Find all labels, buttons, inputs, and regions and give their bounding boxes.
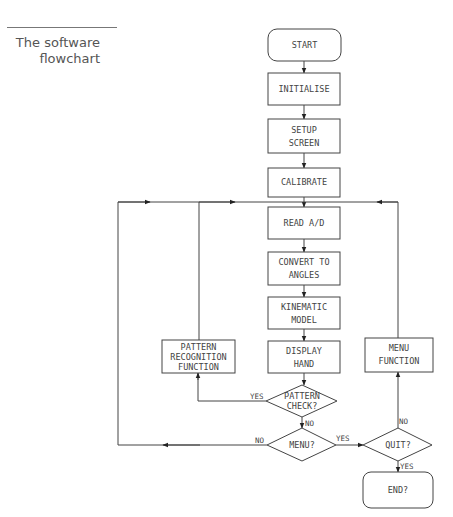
node-start-label: START (292, 40, 318, 50)
node-kinematic-model: KINEMATIC MODEL (268, 297, 340, 329)
node-read-ad-label: READ A/D (284, 218, 325, 228)
edge-label-pattern-no: NO (305, 419, 315, 428)
node-convert-label-1: CONVERT TO (278, 257, 329, 267)
node-display-hand: DISPLAY HAND (268, 341, 340, 373)
node-quit: QUIT? (363, 428, 432, 461)
node-menu-decision: MENU? (267, 428, 336, 461)
node-setup-label-2: SCREEN (289, 138, 320, 148)
node-menu-function: MENU FUNCTION (365, 338, 433, 372)
node-kinematic-label-1: KINEMATIC (281, 302, 327, 312)
node-convert-label-2: ANGLES (289, 270, 320, 280)
node-pattern-check-label-1: PATTERN (284, 391, 320, 401)
edge-label-menu-yes: YES (336, 434, 350, 443)
node-initialise-label: INITIALISE (278, 84, 329, 94)
node-initialise: INITIALISE (268, 73, 340, 105)
node-pattern-recognition: PATTERN RECOGNITION FUNCTION (162, 340, 235, 373)
edges (118, 61, 398, 472)
node-quit-label: QUIT? (385, 440, 411, 450)
node-setup-screen: SETUP SCREEN (268, 119, 340, 153)
node-end: END? (363, 472, 433, 508)
node-menu-function-label-2: FUNCTION (379, 356, 420, 366)
node-pattern-check-label-2: CHECK? (287, 401, 318, 411)
node-start: START (268, 29, 341, 61)
edge-label-menu-no: NO (255, 436, 265, 445)
node-calibrate: CALIBRATE (268, 168, 340, 197)
node-pattern-check: PATTERN CHECK? (266, 385, 337, 417)
node-pattern-rec-label-3: FUNCTION (178, 362, 219, 372)
flowchart: START INITIALISE SETUP SCREEN CALIBRATE … (0, 0, 453, 517)
node-menu-function-label-1: MENU (389, 343, 409, 353)
node-convert-to-angles: CONVERT TO ANGLES (268, 252, 340, 285)
node-display-label-1: DISPLAY (286, 346, 322, 356)
node-setup-label-1: SETUP (291, 125, 317, 135)
edge-label-quit-yes: YES (400, 462, 414, 471)
node-pattern-rec-label-1: PATTERN (181, 342, 217, 352)
edge-label-quit-no: NO (399, 417, 409, 426)
node-read-ad: READ A/D (268, 207, 340, 239)
node-menu-label: MENU? (289, 440, 315, 450)
node-display-label-2: HAND (294, 359, 314, 369)
node-pattern-rec-label-2: RECOGNITION (170, 352, 226, 362)
node-end-label: END? (388, 485, 408, 495)
node-calibrate-label: CALIBRATE (281, 177, 327, 187)
node-kinematic-label-2: MODEL (291, 315, 317, 325)
edge-label-pattern-yes: YES (250, 392, 264, 401)
